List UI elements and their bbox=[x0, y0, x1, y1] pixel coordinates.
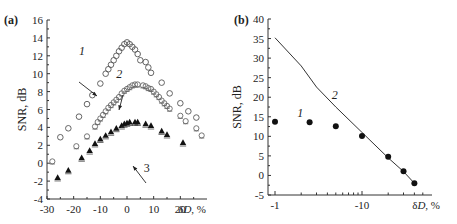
data-point bbox=[95, 119, 100, 124]
y-tick-label: 16 bbox=[32, 14, 44, 26]
series-2-line bbox=[275, 38, 414, 183]
x-label-unit: , % bbox=[425, 199, 440, 211]
y-tick-label: 10 bbox=[253, 130, 265, 142]
data-point bbox=[58, 134, 64, 140]
y-tick-label: 20 bbox=[253, 91, 265, 103]
data-point bbox=[135, 51, 141, 57]
panel-a: -4-20246810121416-30-20-1001020(a)SNR, d… bbox=[4, 13, 207, 215]
data-point bbox=[138, 57, 144, 63]
x-tick-label: -10 bbox=[355, 199, 370, 211]
panel-label: (a) bbox=[4, 13, 18, 27]
x-label-var: D bbox=[182, 203, 191, 215]
data-point bbox=[167, 91, 173, 97]
data-point bbox=[158, 128, 164, 134]
y-tick-label: 25 bbox=[253, 72, 265, 84]
y-tick-label: 12 bbox=[32, 50, 43, 62]
data-point bbox=[84, 134, 89, 139]
y-tick-label: 0 bbox=[38, 157, 44, 169]
y-tick-label: 10 bbox=[32, 68, 44, 80]
x-tick-label: -1 bbox=[270, 199, 279, 211]
panel-label: (b) bbox=[234, 13, 249, 27]
y-tick-label: 5 bbox=[259, 150, 265, 162]
data-point bbox=[411, 180, 417, 186]
y-tick-label: 15 bbox=[253, 111, 265, 123]
annotation-1: 1 bbox=[297, 106, 303, 120]
data-point bbox=[183, 119, 188, 124]
x-tick-label: -10 bbox=[93, 203, 108, 215]
figure: -4-20246810121416-30-20-1001020(a)SNR, d… bbox=[0, 0, 457, 224]
data-point bbox=[76, 114, 82, 120]
data-point bbox=[272, 119, 278, 125]
data-point bbox=[84, 101, 90, 107]
annotation-2: 2 bbox=[116, 67, 122, 81]
data-point bbox=[178, 113, 183, 118]
x-tick-label: -30 bbox=[40, 203, 55, 215]
data-point bbox=[333, 123, 339, 129]
data-point bbox=[143, 59, 149, 65]
panel-b: -50510152025303540-1-10(b)SNR, dBδD, %12 bbox=[230, 13, 440, 211]
y-tick-label: -2 bbox=[34, 175, 43, 187]
data-point bbox=[50, 159, 55, 164]
y-tick-label: 40 bbox=[253, 13, 265, 25]
data-point bbox=[401, 168, 407, 174]
data-point bbox=[86, 147, 92, 153]
data-point bbox=[74, 144, 79, 149]
y-axis-label: SNR, dB bbox=[15, 88, 29, 131]
y-tick-label: 0 bbox=[259, 169, 265, 181]
data-point bbox=[178, 100, 184, 106]
data-point bbox=[359, 133, 365, 139]
x-axis-label: δD, % bbox=[178, 203, 206, 215]
data-point bbox=[186, 108, 192, 114]
y-tick-label: 8 bbox=[38, 86, 44, 98]
y-tick-label: 14 bbox=[32, 32, 44, 44]
annotation-1: 1 bbox=[79, 44, 85, 58]
series-3 bbox=[54, 119, 186, 181]
data-point bbox=[307, 119, 313, 125]
data-point bbox=[98, 81, 104, 87]
x-label-var: D bbox=[416, 199, 425, 211]
x-tick-label: 0 bbox=[124, 203, 130, 215]
y-tick-label: 30 bbox=[253, 52, 265, 64]
data-point bbox=[78, 155, 84, 161]
x-tick-label: -20 bbox=[66, 203, 81, 215]
data-point bbox=[194, 115, 200, 121]
y-tick-label: 35 bbox=[253, 33, 265, 45]
x-axis-label: δD, % bbox=[412, 199, 440, 211]
data-point bbox=[159, 80, 165, 86]
data-point bbox=[146, 65, 152, 71]
data-point bbox=[98, 116, 103, 121]
x-label-unit: , % bbox=[191, 203, 206, 215]
series-1 bbox=[272, 119, 417, 186]
annotation-3: 3 bbox=[144, 161, 150, 175]
data-point bbox=[103, 109, 108, 114]
data-point bbox=[100, 112, 105, 117]
data-point bbox=[148, 122, 154, 128]
x-tick-label: 10 bbox=[148, 203, 160, 215]
y-tick-label: 6 bbox=[38, 104, 44, 116]
data-point bbox=[66, 125, 72, 131]
y-tick-label: 4 bbox=[38, 121, 44, 133]
data-point bbox=[92, 140, 98, 146]
y-axis-label: SNR, dB bbox=[230, 85, 244, 128]
data-point bbox=[65, 167, 71, 173]
data-point bbox=[54, 174, 60, 180]
annotation-2: 2 bbox=[332, 88, 338, 102]
data-point bbox=[199, 133, 204, 138]
data-point bbox=[180, 139, 186, 145]
y-tick-label: -5 bbox=[255, 189, 265, 201]
data-point bbox=[148, 70, 154, 76]
data-point bbox=[142, 121, 148, 127]
data-point bbox=[194, 126, 199, 131]
data-point bbox=[385, 154, 391, 160]
y-tick-label: 2 bbox=[38, 139, 44, 151]
